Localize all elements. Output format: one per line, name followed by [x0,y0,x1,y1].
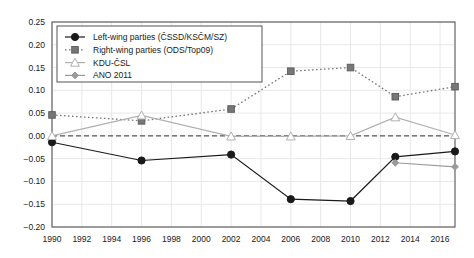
svg-text:2006: 2006 [281,234,300,244]
svg-text:2016: 2016 [431,234,450,244]
data-point [392,93,399,100]
chart-figure: 0.250.200.150.100.050.00−0.05−0.10−0.15−… [0,0,474,258]
svg-text:−0.05: −0.05 [23,154,45,164]
svg-text:0.25: 0.25 [28,17,45,27]
data-point [288,68,295,75]
data-point [347,197,354,204]
svg-text:−0.15: −0.15 [23,199,45,209]
legend-marker [72,47,79,54]
svg-text:2010: 2010 [341,234,360,244]
legend-label: ANO 2011 [93,70,132,80]
line-chart: 0.250.200.150.100.050.00−0.05−0.10−0.15−… [0,0,474,258]
svg-text:2012: 2012 [371,234,390,244]
data-point [138,157,145,164]
data-point [287,196,294,203]
data-point [228,151,235,158]
chart-legend: Left-wing parties (ČSSD/KSČM/SZ)Right-wi… [57,26,262,82]
data-point [228,106,235,113]
svg-text:1998: 1998 [162,234,181,244]
svg-text:1996: 1996 [132,234,151,244]
data-point [451,148,458,155]
svg-text:−0.20: −0.20 [23,222,45,232]
svg-text:0.00: 0.00 [28,131,45,141]
svg-text:0.15: 0.15 [28,63,45,73]
svg-text:0.10: 0.10 [28,85,45,95]
legend-label: KDU-ČSL [93,58,131,68]
data-point [49,112,56,119]
svg-text:0.05: 0.05 [28,108,45,118]
svg-text:2014: 2014 [401,234,420,244]
data-point [347,64,354,71]
svg-text:2008: 2008 [311,234,330,244]
svg-text:1992: 1992 [72,234,91,244]
svg-text:−0.10: −0.10 [23,176,45,186]
legend-label: Left-wing parties (ČSSD/KSČM/SZ) [93,32,227,42]
svg-text:2004: 2004 [252,234,271,244]
svg-text:2002: 2002 [222,234,241,244]
svg-text:0.20: 0.20 [28,40,45,50]
svg-text:2000: 2000 [192,234,211,244]
svg-text:1994: 1994 [102,234,121,244]
svg-text:1990: 1990 [43,234,62,244]
data-point [452,83,459,90]
legend-marker [71,33,78,40]
legend-label: Right-wing parties (ODS/Top09) [93,45,213,55]
